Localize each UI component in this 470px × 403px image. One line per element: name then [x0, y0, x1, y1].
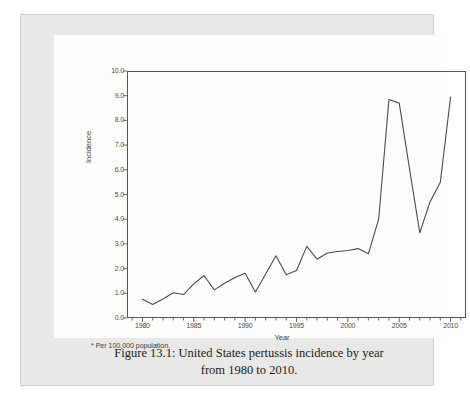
axis-ticks: [123, 71, 461, 322]
figure-panel: 0.01.02.03.04.05.06.07.08.09.010.0 19801…: [54, 35, 444, 338]
figure-card: 0.01.02.03.04.05.06.07.08.09.010.0 19801…: [20, 14, 434, 386]
line-chart-plot: [87, 55, 470, 358]
incidence-series-line: [142, 97, 450, 304]
caption-line-1: Figure 13.1: United States pertussis inc…: [55, 345, 443, 362]
caption-line-2: from 1980 to 2010.: [55, 362, 443, 379]
figure-caption: Figure 13.1: United States pertussis inc…: [55, 345, 443, 379]
